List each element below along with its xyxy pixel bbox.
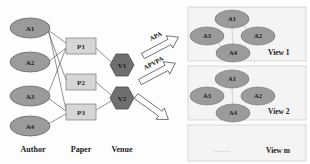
node-author-A2[interactable]: A2 (10, 52, 50, 72)
node-label-P2: P2 (77, 79, 85, 87)
view1-node-label-A2: A2 (254, 32, 262, 39)
view-label-view-m: View m (266, 146, 291, 155)
node-label-A2: A2 (26, 59, 35, 67)
column-labels-group: Author Paper Venue (21, 145, 133, 154)
view1-node-label-A1: A1 (228, 15, 236, 22)
view2-node-label-A1: A1 (228, 75, 236, 82)
node-author-A4[interactable]: A4 (10, 116, 50, 136)
view2-node-A1[interactable]: A1 (215, 70, 249, 88)
view-m-ellipsis: ...... (214, 146, 231, 154)
view-label-view-1: View 1 (268, 48, 290, 57)
view2-node-A4[interactable]: A4 (216, 104, 250, 122)
view2-node-label-A2: A2 (254, 92, 262, 99)
arrows-group: APA APVPA (132, 30, 182, 126)
node-venue-V1[interactable]: V1 (110, 54, 134, 76)
arrow-label-apa: APA (148, 30, 163, 42)
node-label-P1: P1 (77, 43, 85, 51)
view2-node-label-A3: A3 (203, 92, 212, 99)
node-paper-P3[interactable]: P3 (66, 104, 96, 120)
node-label-V2: V2 (118, 95, 127, 103)
figure-canvas: A1 A2 A3 A4 P1 P2 (0, 0, 310, 164)
view2-node-A3[interactable]: A3 (190, 87, 224, 105)
view-label-view-2: View 2 (268, 107, 290, 116)
view-box-view-m (188, 125, 306, 161)
edge-A1-P3 (49, 32, 66, 110)
node-author-A1[interactable]: A1 (10, 18, 50, 38)
venue-nodes-group: V1 V2 (110, 54, 134, 109)
paper-venue-edges (96, 48, 111, 110)
view2-node-A2[interactable]: A2 (241, 87, 275, 105)
view1-node-A3[interactable]: A3 (190, 27, 224, 45)
column-label-author: Author (21, 145, 46, 154)
view2-node-label-A4: A4 (229, 109, 238, 116)
arrow-unlabeled (132, 90, 173, 125)
view1-node-label-A3: A3 (203, 32, 212, 39)
edge-P2-V2 (96, 82, 111, 95)
view1-node-A2[interactable]: A2 (241, 27, 275, 45)
paper-nodes-group: P1 P2 P3 (66, 38, 96, 120)
figure-svg: A1 A2 A3 A4 P1 P2 (0, 0, 310, 164)
node-label-P3: P3 (77, 109, 85, 117)
node-venue-V2[interactable]: V2 (110, 87, 134, 109)
column-label-paper: Paper (71, 145, 92, 154)
edge-A4-P3 (48, 114, 66, 124)
author-nodes-group: A1 A2 A3 A4 (10, 18, 50, 136)
view1-node-A4[interactable]: A4 (216, 44, 250, 62)
edge-P3-V2 (96, 101, 111, 110)
column-label-venue: Venue (111, 145, 132, 154)
node-label-A4: A4 (26, 123, 35, 131)
node-author-A3[interactable]: A3 (10, 86, 50, 106)
node-label-V1: V1 (118, 62, 127, 70)
author-paper-edges (48, 30, 66, 124)
node-label-A3: A3 (26, 93, 35, 101)
view1-node-A1[interactable]: A1 (215, 10, 249, 28)
node-label-A1: A1 (26, 25, 35, 33)
view1-node-label-A4: A4 (229, 49, 238, 56)
edge-A3-P3 (48, 98, 66, 111)
edge-P1-V1 (96, 48, 111, 62)
node-paper-P2[interactable]: P2 (66, 74, 96, 90)
node-paper-P1[interactable]: P1 (66, 38, 96, 54)
